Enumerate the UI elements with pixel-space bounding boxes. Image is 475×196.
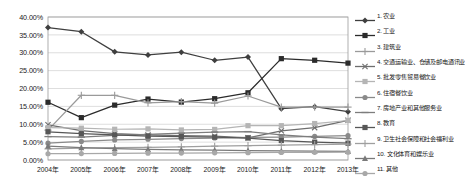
legend-marker-icon [355, 149, 375, 158]
x-tick-label: 2010年 [232, 164, 264, 174]
legend-label: 3. 建筑业 [377, 43, 401, 50]
legend-marker-icon [355, 118, 375, 127]
x-tick-label: 2009年 [199, 164, 231, 174]
y-tick-label: 10.00% [0, 120, 43, 129]
legend-marker-icon [355, 11, 375, 20]
x-tick-label: 2005年 [65, 164, 97, 174]
legend-label: 8. 教育 [377, 119, 395, 126]
legend-item-2[interactable]: 2. 工业 [355, 23, 475, 38]
x-tick-label: 2011年 [265, 164, 297, 174]
y-tick-label: 40.00% [0, 13, 43, 22]
legend-label: 4. 交通运输业、仓储及邮电通讯业 [377, 58, 465, 65]
legend-marker-icon [355, 134, 375, 143]
legend-marker-icon [355, 42, 375, 51]
series-2 [45, 56, 350, 120]
legend-item-5[interactable]: 5. 批发零售贸易餐饮业 [355, 69, 475, 84]
legend-marker-icon [355, 88, 375, 97]
legend-marker-icon [355, 26, 375, 35]
legend-item-9[interactable]: 9. 卫生社会保障和社会福利业 [355, 130, 475, 145]
y-tick-label: 35.00% [0, 31, 43, 40]
legend-item-8[interactable]: 8. 教育 [355, 115, 475, 130]
legend-marker-icon [355, 57, 375, 66]
legend-item-11[interactable]: 11. 其他 [355, 161, 475, 176]
legend-item-1[interactable]: 1. 农业 [355, 8, 475, 23]
legend-label: 2. 工业 [377, 27, 395, 34]
y-tick-label: 25.00% [0, 66, 43, 75]
x-tick-label: 2012年 [299, 164, 331, 174]
legend-label: 1. 农业 [377, 12, 395, 19]
legend-marker-icon [355, 164, 375, 173]
x-tick-label: 2006年 [99, 164, 131, 174]
y-tick-label: 15.00% [0, 102, 43, 111]
series-lines [44, 25, 351, 157]
legend-item-6[interactable]: 6. 住宿餐饮业 [355, 84, 475, 99]
legend-item-10[interactable]: 10. 文化体育和娱乐业 [355, 146, 475, 161]
legend-label: 6. 住宿餐饮业 [377, 89, 413, 96]
legend-label: 5. 批发零售贸易餐饮业 [377, 73, 436, 80]
legend-marker-icon [355, 103, 375, 112]
series-5 [45, 118, 350, 133]
x-tick-label: 2007年 [132, 164, 164, 174]
x-tick-label: 2004年 [32, 164, 64, 174]
chart-legend: 1. 农业2. 工业3. 建筑业4. 交通运输业、仓储及邮电通讯业5. 批发零售… [355, 8, 475, 176]
legend-item-7[interactable]: 7. 房地产业和其他服务业 [355, 100, 475, 115]
legend-item-4[interactable]: 4. 交通运输业、仓储及邮电通讯业 [355, 54, 475, 69]
y-tick-label: 20.00% [0, 84, 43, 93]
legend-label: 11. 其他 [377, 165, 398, 172]
series-1 [45, 25, 351, 115]
legend-label: 9. 卫生社会保障和社会福利业 [377, 135, 454, 142]
series-3 [44, 92, 351, 134]
series-6 [45, 133, 350, 146]
x-tick-label: 2008年 [165, 164, 197, 174]
legend-marker-icon [355, 72, 375, 81]
legend-item-3[interactable]: 3. 建筑业 [355, 39, 475, 54]
legend-label: 7. 房地产业和其他服务业 [377, 104, 442, 111]
legend-label: 10. 文化体育和娱乐业 [377, 150, 434, 157]
y-tick-label: 30.00% [0, 48, 43, 57]
y-tick-label: 5.00% [0, 138, 43, 147]
chart-container: 40.00%35.00%30.00%25.00%20.00%15.00%10.0… [0, 0, 475, 196]
